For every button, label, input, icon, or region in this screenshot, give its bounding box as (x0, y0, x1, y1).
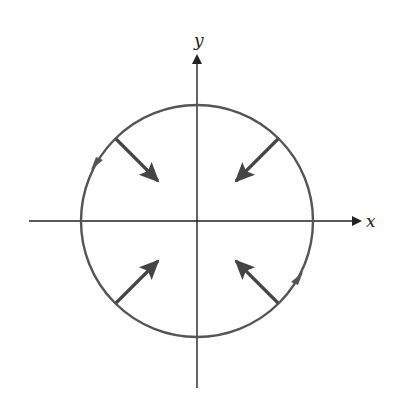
diagram-svg: x y (0, 0, 404, 418)
inward-arrow-upper-right (236, 139, 278, 181)
orientation-arrow-icon (91, 157, 103, 170)
inward-arrow-lower-right (236, 261, 278, 303)
diagram-canvas: x y (0, 0, 404, 418)
inward-arrow-lower-left (116, 261, 158, 303)
y-axis-label: y (193, 30, 204, 50)
orientation-arrow-icon (291, 272, 303, 285)
x-axis-label: x (366, 211, 376, 231)
inward-arrow-upper-left (116, 139, 158, 181)
